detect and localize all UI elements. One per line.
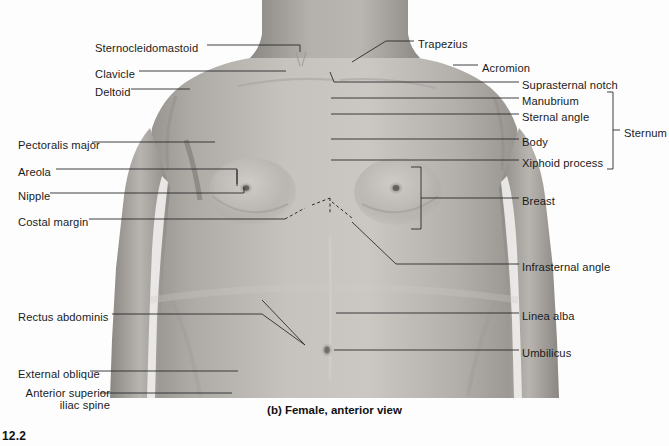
- figure-page: Sternocleidomastoid Clavicle Deltoid Pec…: [0, 0, 669, 446]
- label-nipple: Nipple: [18, 190, 50, 203]
- label-costal-margin: Costal margin: [18, 216, 88, 229]
- label-umbilicus: Umbilicus: [522, 347, 571, 360]
- label-xiphoid-process: Xiphoid process: [522, 157, 603, 170]
- label-trapezius: Trapezius: [418, 38, 468, 51]
- label-external-oblique: External oblique: [18, 368, 100, 381]
- label-clavicle: Clavicle: [95, 68, 135, 81]
- label-suprasternal-notch: Suprasternal notch: [522, 79, 618, 92]
- label-sternocleidomastoid: Sternocleidomastoid: [95, 42, 198, 55]
- label-pectoralis-major: Pectoralis major: [18, 139, 100, 152]
- figure-caption: (b) Female, anterior view: [0, 404, 669, 416]
- label-infrasternal-angle: Infrasternal angle: [522, 261, 610, 274]
- label-acromion: Acromion: [482, 62, 530, 75]
- label-manubrium: Manubrium: [522, 95, 579, 108]
- label-body: Body: [522, 136, 548, 149]
- label-linea-alba: Linea alba: [522, 310, 575, 323]
- label-sternum: Sternum: [624, 127, 667, 140]
- label-sternal-angle: Sternal angle: [522, 111, 589, 124]
- figure-number: 12.2: [2, 429, 26, 443]
- label-areola: Areola: [18, 166, 51, 179]
- anatomy-photograph: [0, 0, 669, 446]
- label-breast: Breast: [522, 195, 555, 208]
- label-rectus-abdominis: Rectus abdominis: [18, 311, 109, 324]
- label-deltoid: Deltoid: [95, 86, 131, 99]
